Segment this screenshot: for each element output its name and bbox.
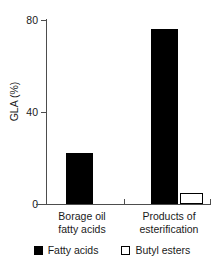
legend-label-fatty-acids: Fatty acids <box>48 245 99 256</box>
bar-chart-figure: GLA (%) 80 40 0 Borage oil fatty acids P… <box>0 0 224 273</box>
filled-square-icon <box>34 246 43 255</box>
x-category-label-2: Products of esterification <box>123 210 215 235</box>
legend-label-butyl-esters: Butyl esters <box>135 245 190 256</box>
x-category-label-1-line-2: fatty acids <box>39 223 125 236</box>
legend-item-fatty-acids: Fatty acids <box>34 245 99 256</box>
bar-products-esterification-butyl-esters <box>180 193 203 205</box>
x-category-label-2-line-1: Products of <box>123 210 215 223</box>
y-axis-title: GLA (%) <box>9 62 20 142</box>
bar-borage-oil-fatty-acids <box>66 153 93 204</box>
x-axis-tick-right <box>210 199 211 205</box>
x-category-label-1: Borage oil fatty acids <box>39 210 125 235</box>
plot-area <box>46 20 210 204</box>
x-category-label-2-line-2: esterification <box>123 223 215 236</box>
legend-item-butyl-esters: Butyl esters <box>121 245 190 256</box>
y-tick-label-40: 40 <box>8 107 38 117</box>
y-tick-label-0: 0 <box>8 199 38 209</box>
open-square-icon <box>121 246 130 255</box>
y-tick-label-80: 80 <box>8 15 38 25</box>
chart-legend: Fatty acids Butyl esters <box>0 245 224 256</box>
x-category-label-1-line-1: Borage oil <box>39 210 125 223</box>
bar-products-esterification-fatty-acids <box>151 29 178 204</box>
